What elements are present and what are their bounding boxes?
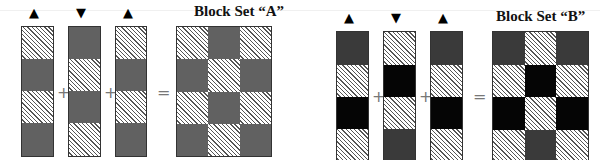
gray-block [69, 27, 100, 59]
hatched-block [384, 97, 415, 129]
black-block [493, 97, 525, 130]
set-a-column-3 [115, 26, 147, 157]
gray-block [22, 59, 53, 91]
gray-block [116, 123, 146, 156]
hatched-block [556, 130, 588, 161]
set-a-column-1 [21, 26, 54, 157]
gray-block [208, 27, 239, 59]
dark-block [384, 129, 415, 160]
gray-block [240, 124, 271, 156]
black-block [384, 65, 415, 97]
hatched-block [116, 91, 146, 123]
hatched-block [493, 65, 525, 98]
hatched-block [208, 124, 239, 156]
equals-sign: = [157, 83, 170, 102]
set-b-column-1 [336, 31, 369, 160]
hatched-block [116, 27, 146, 59]
black-block [525, 65, 557, 98]
hatched-block [337, 65, 368, 97]
hatched-block [525, 32, 557, 65]
equals-sign: = [473, 87, 486, 106]
hatched-block [240, 27, 271, 59]
hatched-block [556, 65, 588, 98]
set-a-result-grid [176, 26, 272, 157]
gray-block [116, 59, 146, 91]
hatched-block [69, 59, 100, 91]
down-arrow-icon: ▼ [391, 11, 401, 24]
set-b-result-grid [492, 31, 589, 160]
gray-block [69, 91, 100, 123]
dark-block [525, 130, 557, 161]
gray-block [177, 124, 208, 156]
set-b-column-2 [383, 31, 416, 160]
dark-block [431, 32, 462, 65]
black-block [337, 97, 368, 129]
set-b-column-3 [430, 31, 463, 160]
hatched-block [431, 65, 462, 97]
hatched-block [493, 130, 525, 161]
hatched-block [384, 32, 415, 65]
hatched-block [69, 123, 100, 156]
gray-block [22, 123, 53, 156]
up-arrow-icon: ▲ [123, 6, 133, 19]
dark-block [556, 32, 588, 65]
up-arrow-icon: ▲ [344, 11, 354, 24]
black-block [431, 97, 462, 129]
gray-block [177, 59, 208, 91]
hatched-block [337, 129, 368, 160]
set-b-title: Block Set “B” [496, 8, 585, 25]
hatched-block [177, 92, 208, 124]
set-a-column-2 [68, 26, 101, 157]
up-arrow-icon: ▲ [438, 11, 448, 24]
gray-block [208, 92, 239, 124]
dark-block [337, 32, 368, 65]
set-a-title: Block Set “A” [194, 3, 284, 20]
hatched-block [208, 59, 239, 91]
gray-block [240, 59, 271, 91]
dark-block [493, 32, 525, 65]
hatched-block [525, 97, 557, 130]
hatched-block [22, 91, 53, 123]
hatched-block [177, 27, 208, 59]
up-arrow-icon: ▲ [29, 6, 39, 19]
hatched-block [431, 129, 462, 160]
black-block [556, 97, 588, 130]
down-arrow-icon: ▼ [76, 6, 86, 19]
hatched-block [22, 27, 53, 59]
hatched-block [240, 92, 271, 124]
